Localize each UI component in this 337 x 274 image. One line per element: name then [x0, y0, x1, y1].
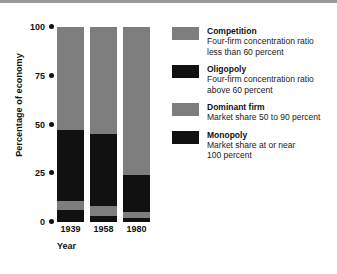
legend-item-oligopoly[interactable]: OligopolyFour-firm concentration ratio a…: [172, 64, 337, 95]
bar-1958[interactable]: [90, 27, 117, 222]
y-tick-label: 100: [30, 22, 45, 32]
legend-swatch-icon: [172, 131, 199, 144]
bar-segment-monopoly[interactable]: [90, 216, 117, 222]
y-tick-50: 50: [35, 120, 54, 130]
legend-title: Competition: [207, 26, 314, 36]
bar-segment-oligopoly[interactable]: [90, 134, 117, 206]
bar-segment-competition[interactable]: [57, 27, 84, 130]
bar-segment-oligopoly[interactable]: [123, 175, 150, 212]
y-tick-0: 0: [40, 217, 54, 227]
y-tick-label: 0: [40, 217, 45, 227]
bar-group: [57, 27, 153, 222]
y-tick-25: 25: [35, 168, 54, 178]
plot-area: Percentage of economy 0255075100 1939195…: [0, 0, 170, 274]
legend-description: Market share 50 to 90 percent: [207, 112, 320, 123]
legend-text-block: CompetitionFour-firm concentration ratio…: [207, 26, 314, 57]
bar-segment-dominant-firm[interactable]: [90, 206, 117, 216]
bar-segment-dominant-firm[interactable]: [57, 201, 84, 211]
bar-1939[interactable]: [57, 27, 84, 222]
legend-description: Four-firm concentration ratio above 60 p…: [207, 74, 314, 95]
legend-item-monopoly[interactable]: MonopolyMarket share at or near 100 perc…: [172, 130, 337, 161]
legend-item-competition[interactable]: CompetitionFour-firm concentration ratio…: [172, 26, 337, 57]
x-tick-label-1939: 1939: [54, 224, 87, 234]
legend-title: Oligopoly: [207, 64, 314, 74]
x-tick-label-1980: 1980: [120, 224, 153, 234]
legend-description: Four-firm concentration ratio less than …: [207, 36, 314, 57]
bar-segment-monopoly[interactable]: [123, 218, 150, 222]
legend-text-block: Dominant firmMarket share 50 to 90 perce…: [207, 102, 320, 123]
legend-swatch-icon: [172, 103, 199, 116]
legend-text-block: OligopolyFour-firm concentration ratio a…: [207, 64, 314, 95]
bar-segment-monopoly[interactable]: [57, 210, 84, 222]
y-axis-ticks: 0255075100: [20, 0, 54, 274]
legend-text-block: MonopolyMarket share at or near 100 perc…: [207, 130, 295, 161]
bar-segment-oligopoly[interactable]: [57, 130, 84, 200]
chart-legend: CompetitionFour-firm concentration ratio…: [172, 26, 337, 168]
x-axis-tick-labels: 193919581980: [57, 224, 153, 236]
legend-title: Monopoly: [207, 130, 295, 140]
y-tick-dot-marker: [49, 24, 54, 29]
y-tick-label: 50: [35, 120, 45, 130]
y-tick-dot-marker: [49, 73, 54, 78]
legend-swatch-icon: [172, 65, 199, 78]
y-tick-75: 75: [35, 71, 54, 81]
bar-1980[interactable]: [123, 27, 150, 222]
y-tick-100: 100: [30, 22, 54, 32]
legend-swatch-icon: [172, 27, 199, 40]
y-tick-dot-marker: [49, 170, 54, 175]
legend-description: Market share at or near 100 percent: [207, 140, 295, 161]
legend-title: Dominant firm: [207, 102, 320, 112]
bar-segment-dominant-firm[interactable]: [123, 212, 150, 218]
y-tick-label: 25: [35, 168, 45, 178]
x-axis-title: Year: [57, 241, 76, 251]
bar-segment-competition[interactable]: [123, 27, 150, 175]
bar-segment-competition[interactable]: [90, 27, 117, 134]
y-tick-label: 75: [35, 71, 45, 81]
y-tick-dot-marker: [49, 122, 54, 127]
chart-page: Percentage of economy 0255075100 1939195…: [0, 0, 337, 274]
x-tick-label-1958: 1958: [87, 224, 120, 234]
legend-item-dominant-firm[interactable]: Dominant firmMarket share 50 to 90 perce…: [172, 102, 337, 123]
